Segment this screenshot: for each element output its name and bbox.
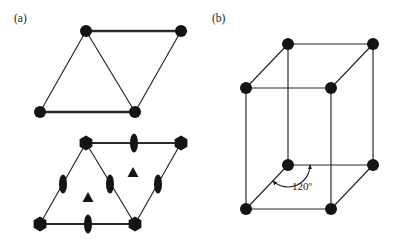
lattice-point-bottom-front-left	[240, 203, 252, 215]
panel-label-a: (a)	[14, 12, 27, 25]
lattice-point-top-left	[80, 25, 92, 37]
figure-root: (a) (b) 120º	[0, 0, 397, 246]
two-fold-bottom-edge-icon	[84, 215, 92, 234]
figure-background	[0, 0, 397, 246]
lattice-point-bottom-back-right	[367, 159, 379, 171]
crystal-unit-cell-figure: (a) (b) 120º	[0, 0, 397, 246]
two-fold-left-edge-icon	[59, 175, 67, 194]
two-fold-diagonal-icon	[106, 175, 114, 194]
lattice-point-bottom-front-right	[325, 203, 337, 215]
lattice-point-top-front-right	[325, 82, 337, 94]
lattice-point-top-front-left	[240, 82, 252, 94]
lattice-point-top-right	[175, 25, 187, 37]
panel-label-b: (b)	[212, 12, 226, 25]
lattice-point-bottom-back-left	[282, 159, 294, 171]
lattice-point-top-back-left	[282, 38, 294, 50]
two-fold-top-edge-icon	[130, 134, 138, 153]
lattice-point-top-back-right	[367, 38, 379, 50]
angle-label: 120º	[292, 180, 313, 192]
two-fold-right-edge-icon	[154, 175, 162, 194]
lattice-point-bottom-right	[129, 106, 141, 118]
lattice-point-bottom-left	[34, 106, 46, 118]
